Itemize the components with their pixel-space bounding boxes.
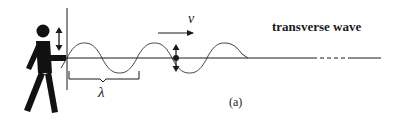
wavelength-bracket — [69, 71, 139, 82]
diagram-title: transverse wave — [272, 19, 361, 35]
oscillating-particle — [173, 44, 180, 72]
up-down-double-arrow-icon — [56, 27, 63, 51]
velocity-label: v — [188, 11, 194, 27]
wavelength-label: λ — [98, 84, 105, 101]
person-icon — [24, 25, 66, 114]
figure-caption: (a) — [229, 95, 242, 110]
